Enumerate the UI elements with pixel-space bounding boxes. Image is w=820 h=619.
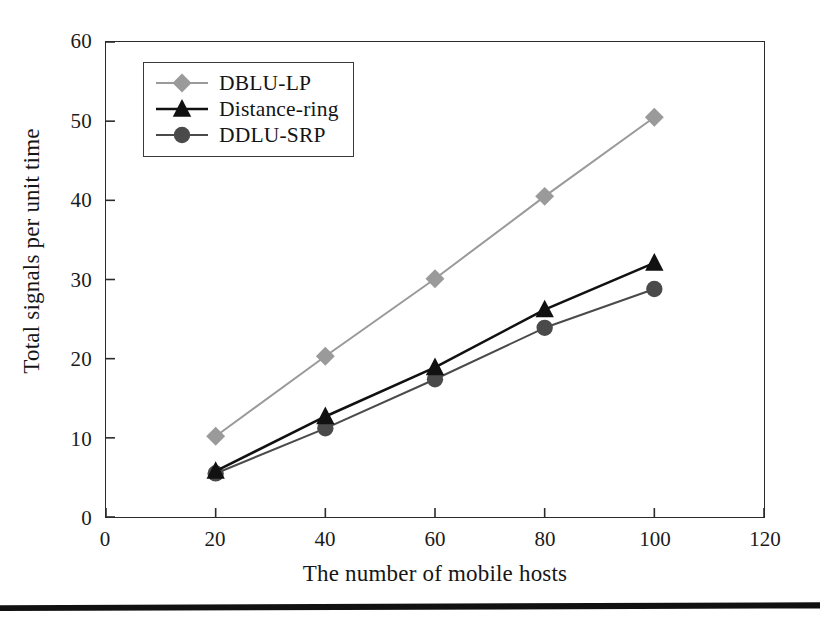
figure-container: Total signals per unit time 010203040506…	[0, 0, 820, 619]
y-axis-tick-label: 50	[70, 108, 92, 133]
y-axis-tick-label: 40	[70, 188, 92, 213]
y-axis-tick-label: 0	[81, 506, 92, 531]
legend-marker-diamond-icon	[154, 72, 210, 94]
data-point-diamond	[316, 347, 335, 366]
x-axis-tick-label: 0	[100, 527, 111, 552]
y-axis-tick-label: 60	[70, 29, 92, 54]
x-axis-title: The number of mobile hosts	[105, 561, 765, 587]
x-axis-tick-label: 100	[639, 527, 671, 552]
data-point-triangle	[316, 407, 334, 425]
x-axis-tick-label: 20	[205, 527, 226, 552]
x-axis-tick-label: 120	[749, 527, 781, 552]
data-point-diamond	[535, 187, 554, 206]
legend-marker	[174, 127, 190, 143]
series-ddlu-srp	[207, 281, 662, 482]
y-axis-tick-label: 30	[70, 267, 92, 292]
legend-item: DDLU-SRP	[154, 122, 339, 148]
data-point-diamond	[173, 74, 192, 93]
x-axis-tick-label: 80	[535, 527, 556, 552]
legend-item: DBLU-LP	[154, 70, 339, 96]
data-point-diamond	[206, 427, 225, 446]
y-axis-tick-labels: 0102030405060	[30, 41, 92, 518]
legend-item-label: Distance-ring	[219, 97, 339, 122]
data-point-circle	[174, 127, 190, 143]
series-dblu-lp	[206, 108, 664, 446]
data-point-triangle	[535, 300, 553, 318]
y-axis-tick-label: 20	[70, 347, 92, 372]
data-point-circle	[536, 320, 552, 336]
data-point-circle	[646, 281, 662, 297]
x-axis-tick-labels: 020406080100120	[105, 527, 765, 557]
legend-marker-triangle-icon	[154, 98, 210, 120]
legend-marker	[173, 74, 192, 93]
data-point-triangle	[426, 357, 444, 375]
x-axis-tick-label: 40	[315, 527, 336, 552]
legend-marker-circle-icon	[154, 124, 210, 146]
y-axis-tick-label: 10	[70, 426, 92, 451]
data-point-diamond	[645, 108, 664, 127]
legend-item-label: DBLU-LP	[219, 71, 311, 96]
chart-legend: DBLU-LPDistance-ringDDLU-SRP	[143, 62, 354, 157]
x-axis-tick-label: 60	[425, 527, 446, 552]
legend-item: Distance-ring	[154, 96, 339, 122]
data-point-diamond	[426, 269, 445, 288]
legend-item-label: DDLU-SRP	[219, 123, 326, 148]
page-divider-rule	[0, 602, 820, 611]
data-point-triangle	[645, 253, 663, 271]
